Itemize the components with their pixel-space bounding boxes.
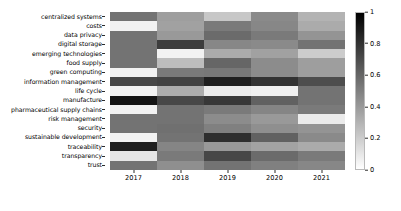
heatmap-cell — [204, 77, 251, 86]
heatmap-cell — [110, 40, 157, 49]
heatmap-cell — [298, 133, 345, 142]
y-axis-tick-mark — [102, 91, 105, 92]
y-axis-label: costs — [0, 21, 106, 30]
heatmap-cell — [204, 58, 251, 67]
heatmap-cell — [157, 40, 204, 49]
heatmap-cell — [298, 58, 345, 67]
x-axis-tick-mark — [133, 170, 134, 173]
heatmap-cell — [157, 105, 204, 114]
heatmap-cell — [298, 68, 345, 77]
heatmap-cell — [251, 21, 298, 30]
heatmap-cell — [251, 142, 298, 151]
colorbar-tick: 0.4 — [365, 104, 381, 111]
heatmap-cell — [251, 77, 298, 86]
heatmap-cell — [204, 12, 251, 21]
y-axis-label: traceability — [0, 142, 106, 151]
x-axis-tick: 2017 — [110, 170, 157, 190]
heatmap-cell — [110, 77, 157, 86]
heatmap-cell — [157, 142, 204, 151]
y-axis-label: trust — [0, 161, 106, 170]
heatmap-cell — [204, 114, 251, 123]
x-axis-tick-mark — [180, 170, 181, 173]
heatmap-cell — [110, 49, 157, 58]
heatmap-cell — [110, 21, 157, 30]
heatmap-cell — [298, 77, 345, 86]
x-axis-tick: 2018 — [157, 170, 204, 190]
heatmap-cell — [251, 105, 298, 114]
heatmap-cell — [298, 114, 345, 123]
colorbar-tick-label: 0 — [370, 167, 374, 174]
heatmap-cell — [298, 124, 345, 133]
y-axis-label: food supply — [0, 58, 106, 67]
heatmap-cell — [204, 142, 251, 151]
y-axis-tick-mark — [102, 16, 105, 17]
y-axis-label: transparency — [0, 151, 106, 160]
x-axis-label: 2019 — [219, 175, 236, 182]
heatmap-cell — [110, 86, 157, 95]
heatmap-cell — [298, 105, 345, 114]
colorbar-tick-mark — [365, 170, 368, 171]
y-axis-label: digital storage — [0, 40, 106, 49]
heatmap-cell — [157, 21, 204, 30]
colorbar-tick: 0.6 — [365, 72, 381, 79]
heatmap-cell — [110, 142, 157, 151]
y-axis-tick-mark — [102, 25, 105, 26]
heatmap-cell — [251, 86, 298, 95]
colorbar-tick: 0.2 — [365, 135, 381, 142]
colorbar-gradient — [355, 12, 365, 170]
heatmap-cell — [157, 31, 204, 40]
colorbar-tick-label: 0.8 — [370, 40, 381, 47]
heatmap-grid — [110, 12, 345, 170]
y-axis-tick-mark — [102, 63, 105, 64]
heatmap-cell — [204, 151, 251, 160]
heatmap-cell — [157, 124, 204, 133]
y-axis-label: emerging technologies — [0, 49, 106, 58]
heatmap-cell — [298, 86, 345, 95]
heatmap-cell — [298, 49, 345, 58]
heatmap-cell — [110, 114, 157, 123]
heatmap-cell — [251, 68, 298, 77]
colorbar-tick: 1 — [365, 9, 374, 16]
heatmap-cell — [298, 151, 345, 160]
heatmap-cell — [204, 133, 251, 142]
y-axis-tick-mark — [102, 72, 105, 73]
y-axis-label: risk management — [0, 114, 106, 123]
colorbar-tick-mark — [365, 12, 368, 13]
heatmap-cell — [251, 124, 298, 133]
heatmap-cell — [204, 31, 251, 40]
heatmap-cell — [110, 58, 157, 67]
y-axis-tick-mark — [102, 146, 105, 147]
heatmap-cell — [251, 31, 298, 40]
heatmap-cell — [298, 161, 345, 170]
colorbar-tick-label: 0.4 — [370, 104, 381, 111]
x-axis-tick: 2019 — [204, 170, 251, 190]
heatmap-cell — [298, 40, 345, 49]
y-axis-label: pharmaceutical supply chains — [0, 105, 106, 114]
heatmap-cell — [298, 96, 345, 105]
y-axis-tick-mark — [102, 118, 105, 119]
y-axis-label: centralized systems — [0, 12, 106, 21]
heatmap-cell — [110, 161, 157, 170]
heatmap-cell — [204, 21, 251, 30]
x-axis-tick: 2020 — [251, 170, 298, 190]
y-axis-label: sustainable development — [0, 133, 106, 142]
heatmap-cell — [204, 161, 251, 170]
heatmap-cell — [110, 151, 157, 160]
heatmap-cell — [251, 151, 298, 160]
heatmap-cell — [251, 49, 298, 58]
heatmap-cell — [157, 58, 204, 67]
heatmap-cell — [251, 40, 298, 49]
heatmap-cell — [298, 31, 345, 40]
heatmap-cell — [110, 105, 157, 114]
heatmap-cell — [157, 86, 204, 95]
x-axis-label: 2017 — [125, 175, 142, 182]
heatmap-cell — [157, 161, 204, 170]
heatmap-cell — [157, 133, 204, 142]
heatmap-cell — [204, 49, 251, 58]
y-axis-tick-mark — [102, 165, 105, 166]
y-axis-tick-mark — [102, 81, 105, 82]
heatmap-cell — [157, 151, 204, 160]
y-axis-tick-mark — [102, 137, 105, 138]
heatmap-cell — [110, 96, 157, 105]
colorbar-tick: 0 — [365, 167, 374, 174]
